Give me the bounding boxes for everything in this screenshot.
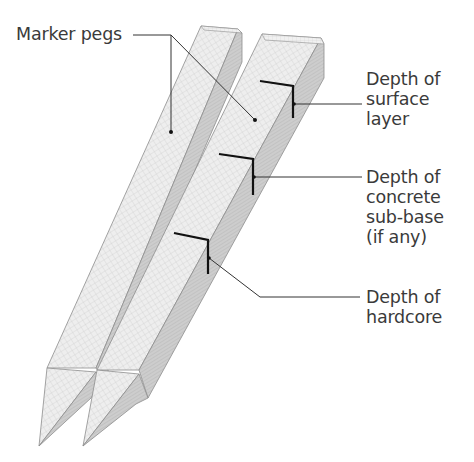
label-hardcore: Depth of hardcore (366, 287, 442, 327)
leader-dot (292, 102, 296, 106)
label-surface-layer: Depth of surface layer (366, 69, 440, 129)
label-marker-pegs: Marker pegs (16, 24, 122, 44)
leader-dot (252, 175, 256, 179)
leader-dot (207, 256, 211, 260)
leader-dot (253, 118, 257, 122)
leader-hardcore (209, 258, 360, 297)
label-concrete-sub-base: Depth of concrete sub-base (if any) (366, 167, 444, 247)
leader-dot (169, 130, 173, 134)
